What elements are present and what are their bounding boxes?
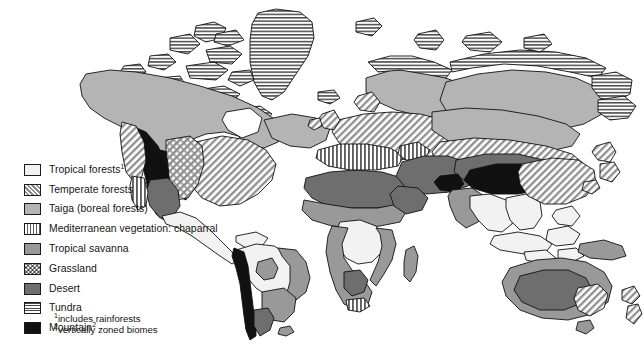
region-madagascar	[404, 246, 418, 282]
swatch-chaparral	[24, 223, 41, 235]
legend-item-desert: Desert	[24, 279, 259, 299]
legend-item-chaparral: Mediterranean vegetation: chaparral	[24, 219, 259, 239]
world-biomes-figure: Tropical forests1 Temperate forests Taig…	[0, 0, 644, 350]
footnote-1: 1includes rainforests	[54, 313, 158, 324]
footnote-2: 2vertically zoned biomes	[54, 324, 158, 335]
region-kalahari	[344, 270, 368, 296]
legend-label-taiga: Taiga (boreal forests)	[49, 203, 148, 215]
legend-item-tropical-forests: Tropical forests1	[24, 160, 259, 180]
region-tasmania	[576, 320, 594, 334]
legend-item-grassland: Grassland	[24, 259, 259, 279]
region-greenland	[250, 9, 314, 100]
legend-item-tropical-savanna: Tropical savanna	[24, 239, 259, 259]
region-southeast-asia	[470, 194, 542, 232]
legend-label-temperate-forests: Temperate forests	[49, 184, 133, 196]
legend-item-temperate-forests: Temperate forests	[24, 180, 259, 200]
region-iceland	[318, 90, 340, 104]
legend-label-tropical-forests: Tropical forests1	[49, 164, 124, 176]
region-china-temperate	[518, 158, 596, 204]
swatch-tropical-forests	[24, 164, 41, 176]
swatch-taiga	[24, 203, 41, 215]
legend-label-tropical-savanna: Tropical savanna	[49, 243, 129, 255]
swatch-tundra	[24, 302, 41, 314]
region-new-guinea	[578, 240, 626, 260]
swatch-mountain	[24, 322, 41, 334]
swatch-tropical-savanna	[24, 243, 41, 255]
swatch-desert	[24, 283, 41, 295]
swatch-temperate-forests	[24, 184, 41, 196]
region-british-isles	[308, 110, 340, 130]
swatch-grassland	[24, 263, 41, 275]
legend-footnotes: 1includes rainforests 2vertically zoned …	[54, 313, 158, 336]
region-falklands	[278, 326, 294, 336]
region-new-zealand	[622, 286, 642, 324]
legend-item-taiga: Taiga (boreal forests)	[24, 200, 259, 220]
legend-label-desert: Desert	[49, 283, 80, 295]
region-arctic-scandinavia	[356, 18, 452, 78]
legend-label-grassland: Grassland	[49, 263, 97, 275]
legend-label-chaparral: Mediterranean vegetation: chaparral	[49, 223, 218, 235]
legend: Tropical forests1 Temperate forests Taig…	[24, 160, 259, 338]
